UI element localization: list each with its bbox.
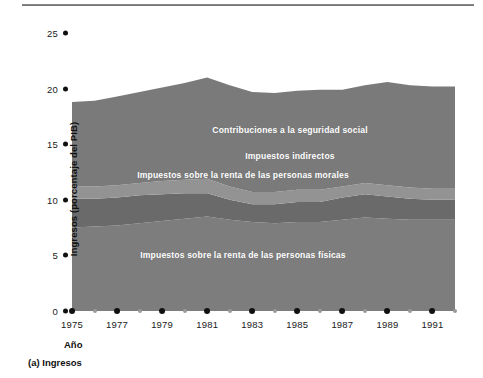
x-tick-minor-1976 — [93, 309, 97, 313]
figure-panel: Contribuciones a la seguridad social Imp… — [0, 0, 483, 378]
x-tick-label: 1987 — [331, 319, 353, 330]
x-tick-minor-1984 — [273, 309, 277, 313]
x-tick-1987: 1987 — [331, 308, 353, 330]
x-tick-label: 1983 — [241, 319, 263, 330]
x-tick-1979: 1979 — [151, 308, 173, 330]
x-tick-marker — [69, 308, 75, 314]
x-tick-marker — [339, 308, 345, 314]
x-tick-label: 1979 — [151, 319, 173, 330]
x-tick-label: 1981 — [196, 319, 218, 330]
x-tick-marker — [384, 308, 390, 314]
x-tick-marker — [294, 308, 300, 314]
x-tick-marker — [204, 308, 210, 314]
x-axis-title: Año — [64, 339, 82, 350]
x-tick-1985: 1985 — [286, 308, 308, 330]
x-tick-1989: 1989 — [376, 308, 398, 330]
x-tick-marker — [159, 308, 165, 314]
x-tick-marker — [249, 308, 255, 314]
figure-caption: (a) Ingresos — [28, 357, 82, 368]
x-tick-minor-1982 — [228, 309, 232, 313]
x-tick-minor-1988 — [363, 309, 367, 313]
x-tick-1977: 1977 — [106, 308, 128, 330]
x-tick-minor-1986 — [318, 309, 322, 313]
x-tick-minor-1992 — [453, 309, 457, 313]
x-tick-label: 1975 — [61, 319, 83, 330]
x-tick-minor-1980 — [183, 309, 187, 313]
x-tick-1991: 1991 — [422, 308, 444, 330]
x-tick-label: 1991 — [422, 319, 444, 330]
x-tick-marker — [114, 308, 120, 314]
x-tick-label: 1977 — [106, 319, 128, 330]
x-tick-minor-1978 — [138, 309, 142, 313]
x-tick-1981: 1981 — [196, 308, 218, 330]
x-tick-1983: 1983 — [241, 308, 263, 330]
x-tick-minor-1990 — [408, 309, 412, 313]
x-tick-1975: 1975 — [61, 308, 83, 330]
x-tick-marker — [429, 308, 435, 314]
x-tick-label: 1985 — [286, 319, 308, 330]
x-axis: 197519771979198119831985198719891991 — [0, 0, 483, 378]
x-tick-label: 1989 — [376, 319, 398, 330]
